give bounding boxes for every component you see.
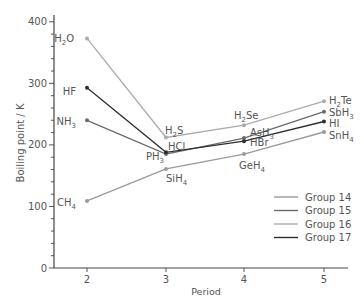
x-axis-label: Period <box>191 286 221 297</box>
data-point <box>85 118 89 122</box>
point-label-ch4: CH4 <box>57 197 77 211</box>
data-point <box>164 167 168 171</box>
data-point <box>85 199 89 203</box>
data-point <box>322 99 326 103</box>
x-tick-label: 4 <box>241 274 247 285</box>
data-point <box>85 36 89 40</box>
y-axis: 0100200300400 <box>28 15 54 274</box>
legend-item-group-15: Group 15 <box>274 205 351 216</box>
series-line-group-14 <box>87 132 324 201</box>
data-point <box>322 110 326 114</box>
y-tick-label: 200 <box>28 139 47 150</box>
data-point <box>322 120 326 124</box>
point-label-sih4: SiH4 <box>166 173 188 187</box>
y-tick-label: 300 <box>28 78 47 89</box>
point-label-h2o: H2O <box>54 33 74 47</box>
point-labels: H2OHFNH3CH4H2SHClPH3SiH4H2SeAsH3HBrGeH4H… <box>54 33 354 211</box>
boiling-point-chart: 0100200300400 2345 Boiling point / K Per… <box>0 0 364 305</box>
legend-item-group-16: Group 16 <box>274 219 351 230</box>
point-label-snh4: SnH4 <box>329 130 354 144</box>
legend-label: Group 16 <box>305 219 351 230</box>
legend-label: Group 14 <box>305 192 351 203</box>
point-label-hcl: HCl <box>168 141 185 152</box>
point-label-ph3: PH3 <box>146 151 164 165</box>
x-tick-label: 5 <box>321 274 327 285</box>
point-label-hi: HI <box>329 118 339 129</box>
data-point <box>242 139 246 143</box>
y-tick-label: 100 <box>28 201 47 212</box>
legend-label: Group 15 <box>305 205 351 216</box>
y-axis-label: Boiling point / K <box>15 103 26 182</box>
series-line-group-16 <box>87 38 324 137</box>
series-lines <box>85 36 326 203</box>
x-tick-label: 3 <box>163 274 169 285</box>
legend-item-group-14: Group 14 <box>274 192 351 203</box>
series-line-group-17 <box>87 88 324 153</box>
y-tick-label: 0 <box>41 263 47 274</box>
data-point <box>164 136 168 140</box>
point-label-hbr: HBr <box>250 137 269 148</box>
series-line-group-15 <box>87 112 324 154</box>
x-axis: 2345 <box>54 268 348 285</box>
data-point <box>322 130 326 134</box>
legend: Group 14Group 15Group 16Group 17 <box>274 192 351 244</box>
x-tick-label: 2 <box>84 274 90 285</box>
point-label-nh3: NH3 <box>57 116 76 130</box>
legend-label: Group 17 <box>305 232 351 243</box>
data-point <box>85 86 89 90</box>
point-label-geh4: GeH4 <box>239 160 265 174</box>
data-point <box>242 152 246 156</box>
legend-item-group-17: Group 17 <box>274 232 351 243</box>
point-label-hf: HF <box>63 86 77 97</box>
y-tick-label: 400 <box>28 16 47 27</box>
